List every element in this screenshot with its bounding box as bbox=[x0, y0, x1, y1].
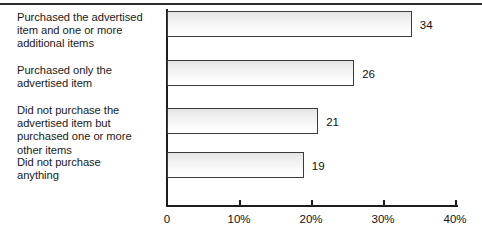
x-axis-tick-label: 0 bbox=[164, 213, 170, 225]
x-axis-tick-label: 10% bbox=[227, 213, 250, 225]
bar bbox=[167, 11, 412, 37]
bar bbox=[167, 108, 318, 134]
x-axis-line bbox=[166, 205, 458, 207]
bar-value-label: 19 bbox=[312, 161, 325, 173]
bar bbox=[167, 60, 354, 86]
bar-value-label: 21 bbox=[326, 117, 339, 129]
x-axis-tick bbox=[239, 200, 241, 205]
plot-area: 34262119 010%20%30%40% bbox=[0, 0, 482, 235]
bar-value-label: 26 bbox=[362, 69, 375, 81]
x-axis-tick-label: 40% bbox=[443, 213, 466, 225]
bar bbox=[167, 152, 304, 178]
chart-figure: Purchased the advertised item and one or… bbox=[0, 0, 482, 235]
x-axis-tick-label: 20% bbox=[299, 213, 322, 225]
x-axis-tick bbox=[383, 200, 385, 205]
x-axis-tick bbox=[455, 200, 457, 205]
x-axis-tick bbox=[311, 200, 313, 205]
bar-value-label: 34 bbox=[420, 20, 433, 32]
x-axis-tick-label: 30% bbox=[371, 213, 394, 225]
